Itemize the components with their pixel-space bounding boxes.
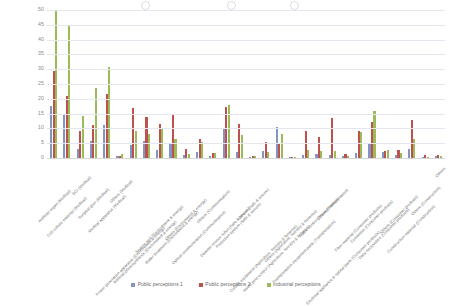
x-axis-tick-label: Others	[435, 167, 447, 179]
grid-line	[47, 114, 445, 115]
bar[interactable]	[387, 150, 389, 158]
y-axis-tick-label: 25	[24, 81, 44, 86]
legend-swatch-icon	[131, 283, 135, 287]
bar[interactable]	[174, 139, 176, 158]
grid-line	[47, 143, 445, 144]
bar[interactable]	[108, 67, 110, 158]
legend-item[interactable]: Public perceptions 2	[199, 283, 251, 288]
y-axis-tick-label: 50	[24, 7, 44, 12]
top-toolbar-remnant	[0, 0, 452, 10]
bar[interactable]	[82, 116, 84, 158]
y-axis-tick-label: 30	[24, 67, 44, 72]
y-axis-tick-label: 0	[24, 155, 44, 160]
y-axis-tick-label: 5	[24, 141, 44, 146]
bar[interactable]	[320, 151, 322, 158]
grid-line	[47, 128, 445, 129]
plot-grid	[47, 10, 445, 159]
y-axis-tick-label: 15	[24, 111, 44, 116]
chart-legend: Public perceptions 1Public perceptions 2…	[0, 283, 452, 288]
bar[interactable]	[148, 134, 150, 158]
x-axis-tick-label: Others (Safe & secure)	[237, 188, 270, 221]
bar[interactable]	[241, 135, 243, 158]
y-axis-tick-label: 40	[24, 37, 44, 42]
bar[interactable]	[201, 142, 203, 158]
y-axis-tick-label: 35	[24, 52, 44, 57]
grid-line	[47, 10, 445, 11]
toolbar-dot-icon	[290, 1, 299, 10]
legend-label: Public perceptions 2	[205, 283, 250, 288]
y-axis: 05101520253035404550	[24, 10, 44, 158]
legend-label: Public perceptions 1	[138, 283, 183, 288]
grid-line	[47, 69, 445, 70]
y-axis-tick-label: 10	[24, 126, 44, 131]
grid-line	[47, 99, 445, 100]
x-axis-tick-label: Others (Agriculture, forestry & fisherie…	[264, 209, 318, 263]
bar[interactable]	[413, 139, 415, 158]
grid-line	[47, 54, 445, 55]
bar[interactable]	[135, 131, 137, 158]
bar[interactable]	[334, 151, 336, 158]
bar[interactable]	[373, 111, 375, 158]
bar[interactable]	[360, 132, 362, 158]
toolbar-dot-icon	[227, 1, 236, 10]
legend-item[interactable]: Industrial perceptions	[267, 283, 321, 288]
toolbar-dot-icon	[141, 1, 150, 10]
grid-line	[47, 84, 445, 85]
bar[interactable]	[281, 134, 283, 158]
bar[interactable]	[68, 25, 70, 158]
x-axis-labels: Artificial organ (Medical)Cell culture m…	[47, 158, 445, 278]
legend-label: Industrial perceptions	[273, 283, 321, 288]
x-axis-tick-label: Artificial photosynthesis (Environment &…	[112, 220, 177, 285]
x-axis-tick-label: Others (Transportation)	[317, 188, 350, 221]
legend-swatch-icon	[199, 283, 203, 287]
bar[interactable]	[307, 150, 309, 158]
x-axis-tick-label: BCI (Medical)	[72, 176, 92, 196]
plot-area: 05101520253035404550	[0, 10, 452, 170]
y-axis-tick-label: 20	[24, 96, 44, 101]
legend-item[interactable]: Public perceptions 1	[131, 283, 183, 288]
chart-container: 05101520253035404550 Artificial organ (M…	[0, 0, 452, 306]
grid-line	[47, 25, 445, 26]
legend-swatch-icon	[267, 283, 271, 287]
y-axis-tick-label: 45	[24, 22, 44, 27]
grid-line	[47, 40, 445, 41]
